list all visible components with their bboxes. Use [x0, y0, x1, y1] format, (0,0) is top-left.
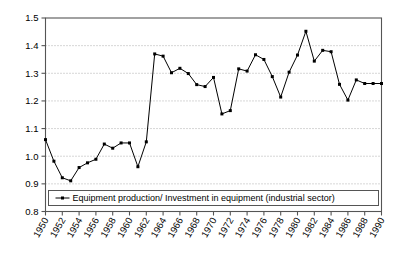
data-point-marker [52, 160, 55, 163]
data-point-marker [229, 109, 232, 112]
data-point-marker [178, 67, 181, 70]
data-point-marker [212, 76, 215, 79]
data-point-marker [380, 82, 383, 85]
data-point-marker [296, 54, 299, 57]
legend-label: Equipment production/ Investment in equi… [73, 193, 335, 203]
y-tick-label: 0.8 [25, 206, 38, 217]
y-tick-label: 1.5 [25, 12, 38, 23]
data-point-marker [78, 166, 81, 169]
data-point-marker [162, 55, 165, 58]
data-point-marker [103, 143, 106, 146]
data-point-marker [170, 71, 173, 74]
data-point-marker [61, 176, 64, 179]
y-tick-label: 1.1 [25, 123, 38, 134]
data-point-marker [69, 179, 72, 182]
data-point-marker [44, 138, 47, 141]
data-point-marker [346, 99, 349, 102]
data-point-marker [288, 71, 291, 74]
data-point-marker [321, 49, 324, 52]
y-tick-label: 0.9 [25, 178, 38, 189]
y-tick-label: 1.4 [25, 40, 38, 51]
data-point-marker [120, 141, 123, 144]
data-point-marker [195, 83, 198, 86]
data-point-marker [372, 82, 375, 85]
data-point-marker [136, 165, 139, 168]
chart-legend: Equipment production/ Investment in equi… [49, 191, 379, 206]
data-point-marker [145, 140, 148, 143]
data-point-marker [262, 58, 265, 61]
data-point-marker [246, 70, 249, 73]
data-point-marker [128, 141, 131, 144]
x-axis-ticks [46, 212, 382, 216]
data-point-marker [313, 60, 316, 63]
y-tick-label: 1.0 [25, 151, 38, 162]
data-point-marker [220, 112, 223, 115]
data-point-marker [237, 67, 240, 70]
data-point-marker [330, 50, 333, 53]
data-point-marker [271, 75, 274, 78]
legend-point-marker [61, 197, 64, 200]
data-point-marker [279, 96, 282, 99]
y-tick-label: 1.3 [25, 68, 38, 79]
data-point-marker [153, 52, 156, 55]
y-tick-label: 1.2 [25, 95, 38, 106]
chart-container: 0.80.91.01.11.21.31.41.5 195019521954195… [0, 0, 399, 254]
data-point-marker [304, 30, 307, 33]
data-point-marker [254, 53, 257, 56]
data-point-marker [355, 78, 358, 81]
data-point-marker [111, 147, 114, 150]
data-point-marker [94, 158, 97, 161]
data-point-marker [187, 72, 190, 75]
chart-background [0, 0, 399, 254]
line-chart: 0.80.91.01.11.21.31.41.5 195019521954195… [0, 0, 399, 254]
data-point-marker [338, 83, 341, 86]
data-point-marker [86, 161, 89, 164]
data-point-marker [204, 85, 207, 88]
data-point-marker [363, 82, 366, 85]
